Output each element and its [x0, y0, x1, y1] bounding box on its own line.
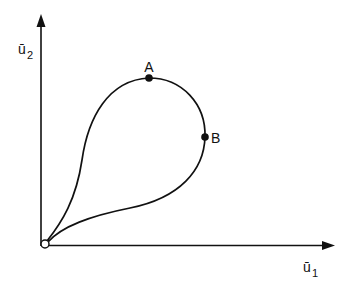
diagram-canvas: A B ū 2 ū 1 — [0, 0, 352, 290]
y-axis-label: ū — [18, 41, 26, 57]
point-a-label: A — [144, 59, 154, 75]
point-b-label: B — [211, 130, 220, 146]
loop-curve — [47, 78, 205, 242]
x-axis-label-subscript: 1 — [312, 267, 318, 279]
point-a — [145, 74, 153, 82]
x-axis-arrow-icon — [322, 241, 335, 250]
point-b — [201, 133, 209, 141]
y-axis-arrow-icon — [37, 14, 46, 27]
y-axis-label-subscript: 2 — [27, 49, 33, 61]
origin-point — [41, 240, 49, 248]
x-axis-label: ū — [303, 259, 311, 275]
